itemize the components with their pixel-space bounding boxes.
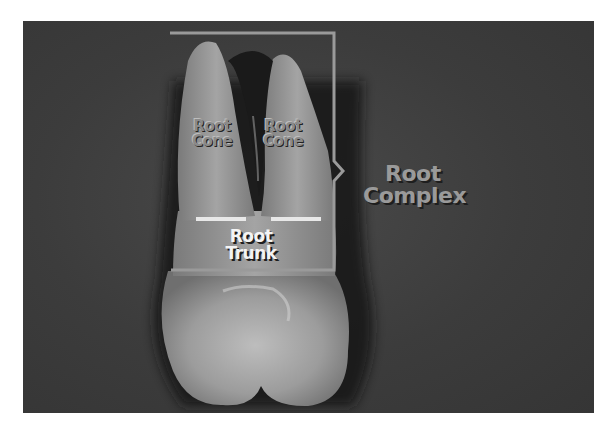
label-root-cone-left: Root Cone bbox=[190, 119, 234, 149]
label-line: Cone bbox=[261, 134, 305, 149]
label-line: Cone bbox=[190, 134, 234, 149]
tooth-photo: Root Cone Root Cone Root Trunk Root Comp… bbox=[23, 21, 594, 413]
label-root-trunk: Root Trunk bbox=[223, 228, 279, 262]
label-root-cone-right: Root Cone bbox=[261, 119, 305, 149]
label-line: Trunk bbox=[223, 245, 279, 262]
label-line: Complex bbox=[363, 185, 473, 207]
label-root-complex: Root Complex bbox=[363, 163, 473, 207]
root-complex-bracket bbox=[23, 21, 594, 413]
label-line: Root bbox=[363, 163, 473, 185]
